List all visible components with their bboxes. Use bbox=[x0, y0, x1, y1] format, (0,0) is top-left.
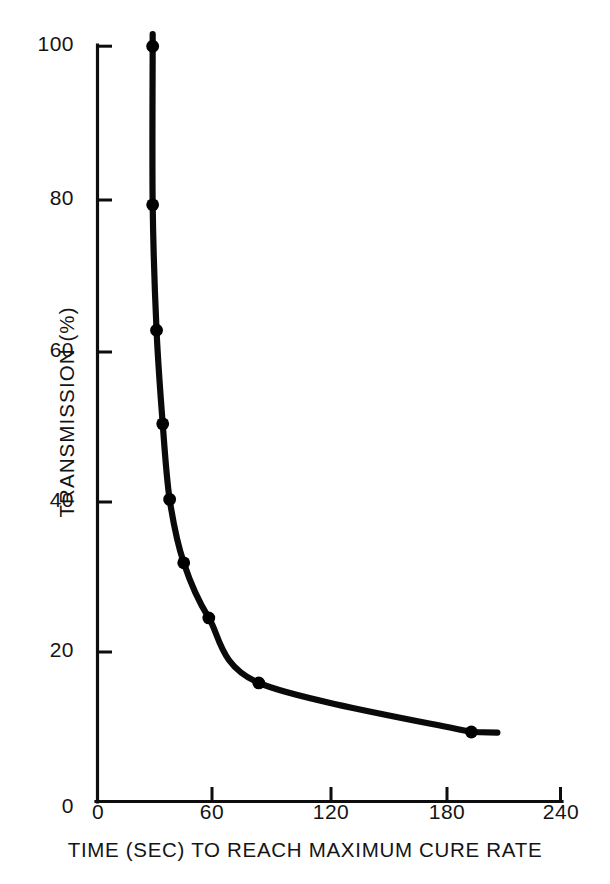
x-tick-label-240: 240 bbox=[531, 800, 591, 824]
data-point bbox=[146, 40, 159, 53]
x-tick-label-0: 0 bbox=[70, 800, 126, 824]
y-axis-title: TRANSMISSION (%) bbox=[55, 267, 79, 557]
data-point bbox=[156, 417, 169, 430]
x-tick-label-120: 120 bbox=[301, 800, 361, 824]
data-series-markers bbox=[146, 40, 478, 739]
plot-area bbox=[0, 0, 610, 884]
y-tick-label-0: 0 bbox=[22, 794, 74, 818]
data-point bbox=[465, 726, 478, 739]
x-axis-ticks bbox=[212, 787, 561, 802]
chart-figure: 100 80 60 40 20 0 0 60 120 180 240 TRANS… bbox=[0, 0, 610, 884]
x-tick-label-60: 60 bbox=[184, 800, 240, 824]
x-tick-label-180: 180 bbox=[417, 800, 477, 824]
y-axis-ticks bbox=[98, 46, 113, 652]
x-axis-title: TIME (SEC) TO REACH MAXIMUM CURE RATE bbox=[0, 838, 610, 862]
y-tick-label-80: 80 bbox=[22, 186, 74, 210]
data-point bbox=[252, 677, 265, 690]
data-series-line bbox=[152, 34, 497, 732]
data-point bbox=[150, 324, 163, 337]
data-point bbox=[146, 198, 159, 211]
data-point bbox=[163, 493, 176, 506]
y-tick-label-20: 20 bbox=[22, 638, 74, 662]
data-point bbox=[202, 612, 215, 625]
data-point bbox=[177, 556, 190, 569]
y-tick-label-100: 100 bbox=[22, 32, 74, 56]
